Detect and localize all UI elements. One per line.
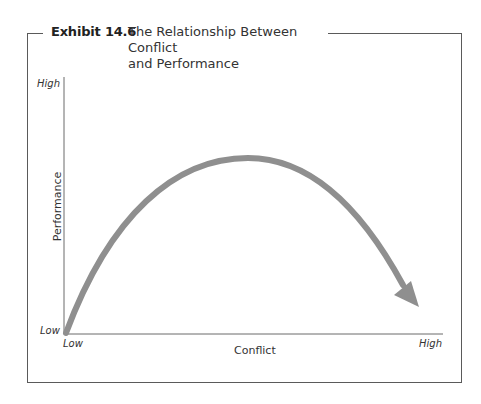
x-axis-title: Conflict [234,344,276,357]
y-axis-title: Performance [51,162,64,252]
arrowhead-icon [394,281,419,307]
y-axis-low-label: Low [40,325,60,336]
x-axis-high-label: High [419,338,442,349]
performance-curve [66,158,403,333]
y-axis-high-label: High [37,78,60,89]
x-axis-low-label: Low [63,338,83,349]
